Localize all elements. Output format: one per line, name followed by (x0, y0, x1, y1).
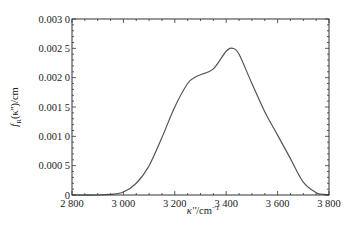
spectrum-chart: 00.000 50.001 00.001 50.002 00.002 50.00… (0, 0, 355, 230)
y-tick-label: 0.001 0 (39, 131, 71, 142)
y-tick-label: 0.002 5 (39, 43, 71, 54)
x-tick-label: 3 200 (163, 198, 187, 209)
axis-ticks (72, 19, 329, 195)
x-tick-label: 3 000 (112, 198, 136, 209)
y-axis-label: fR(κ'')/cm (9, 87, 23, 126)
spectrum-curve (72, 48, 329, 195)
x-tick-label: 2 800 (60, 198, 84, 209)
y-tick-labels: 00.000 50.001 00.001 50.002 00.002 50.00… (39, 14, 71, 201)
y-tick-label: 0.001 5 (39, 102, 71, 113)
plot-frame (72, 19, 329, 195)
x-tick-label: 3 800 (317, 198, 341, 209)
x-axis-label: κ''/cm−1 (187, 204, 220, 216)
y-tick-label: 0.000 5 (39, 160, 71, 171)
y-tick-label: 0.003 0 (39, 14, 71, 25)
y-tick-label: 0.002 0 (39, 72, 71, 83)
x-tick-label: 3 600 (266, 198, 290, 209)
